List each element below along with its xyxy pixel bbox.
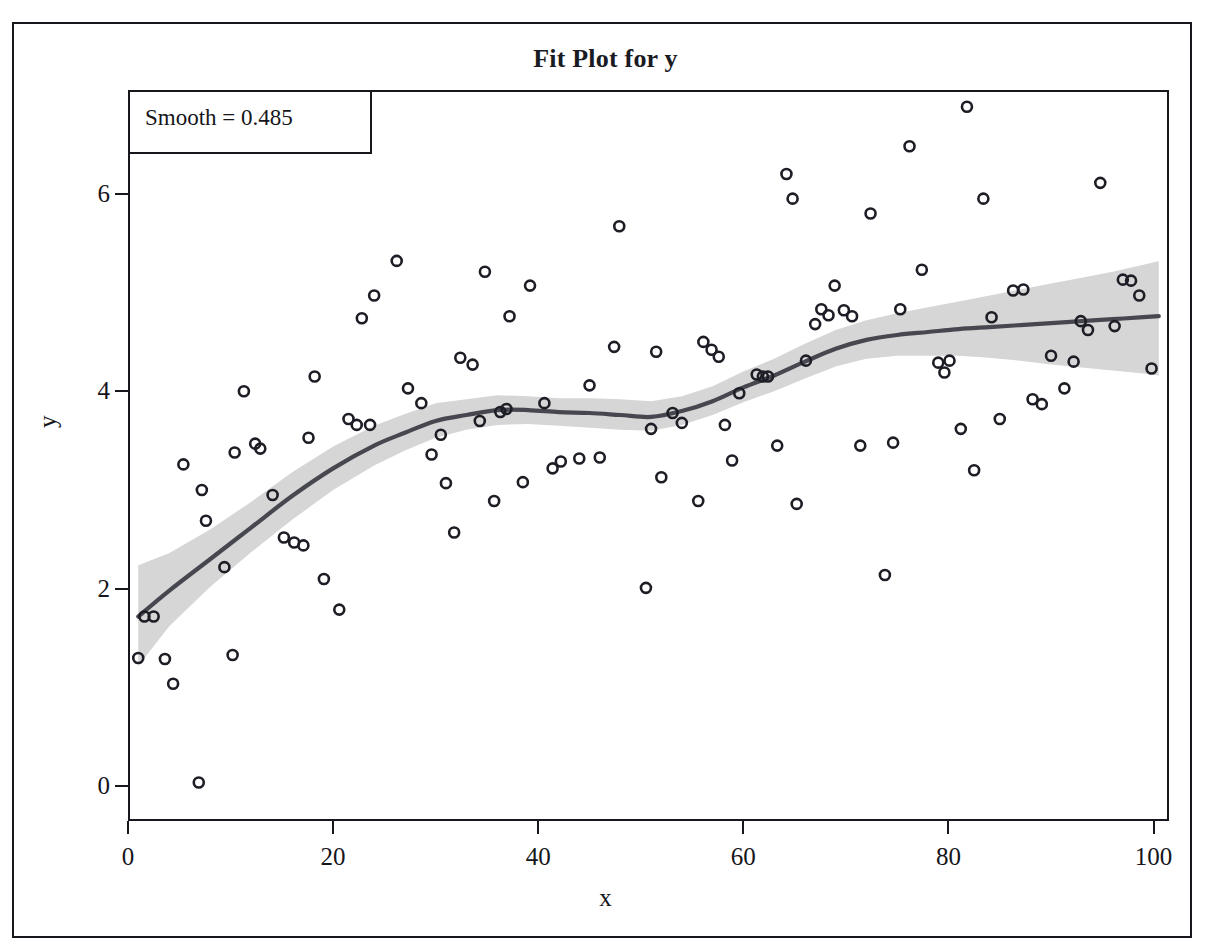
x-axis-tick-labels: 020406080100 (128, 843, 1169, 877)
y-tick-label: 2 (98, 575, 111, 603)
y-tick-mark (115, 193, 128, 195)
x-tick-label: 0 (122, 843, 135, 871)
y-tick-label: 4 (98, 377, 111, 405)
x-tick-label: 20 (321, 843, 346, 871)
x-tick-mark (742, 821, 744, 834)
y-tick-label: 6 (98, 180, 111, 208)
plot-frame (128, 90, 1169, 821)
x-tick-label: 40 (526, 843, 551, 871)
x-tick-mark (127, 821, 129, 834)
x-tick-label: 60 (731, 843, 756, 871)
legend-smooth-label: Smooth = 0.485 (145, 105, 293, 131)
y-tick-mark (115, 390, 128, 392)
y-tick-mark (115, 588, 128, 590)
x-tick-mark (947, 821, 949, 834)
plot-area: Smooth = 0.485 (128, 90, 1169, 821)
x-tick-mark (537, 821, 539, 834)
y-tick-label: 0 (98, 772, 111, 800)
y-tick-mark (115, 785, 128, 787)
x-tick-label: 100 (1135, 843, 1173, 871)
x-tick-mark (1153, 821, 1155, 834)
x-tick-mark (332, 821, 334, 834)
x-axis-title: x (0, 884, 1211, 912)
page-title: Fit Plot for y (0, 44, 1211, 74)
y-axis-title: y (34, 416, 62, 429)
x-tick-label: 80 (936, 843, 961, 871)
fit-plot-page: Fit Plot for y Smooth = 0.485 0246 02040… (0, 0, 1211, 951)
y-axis-tick-labels: 0246 (62, 90, 110, 821)
